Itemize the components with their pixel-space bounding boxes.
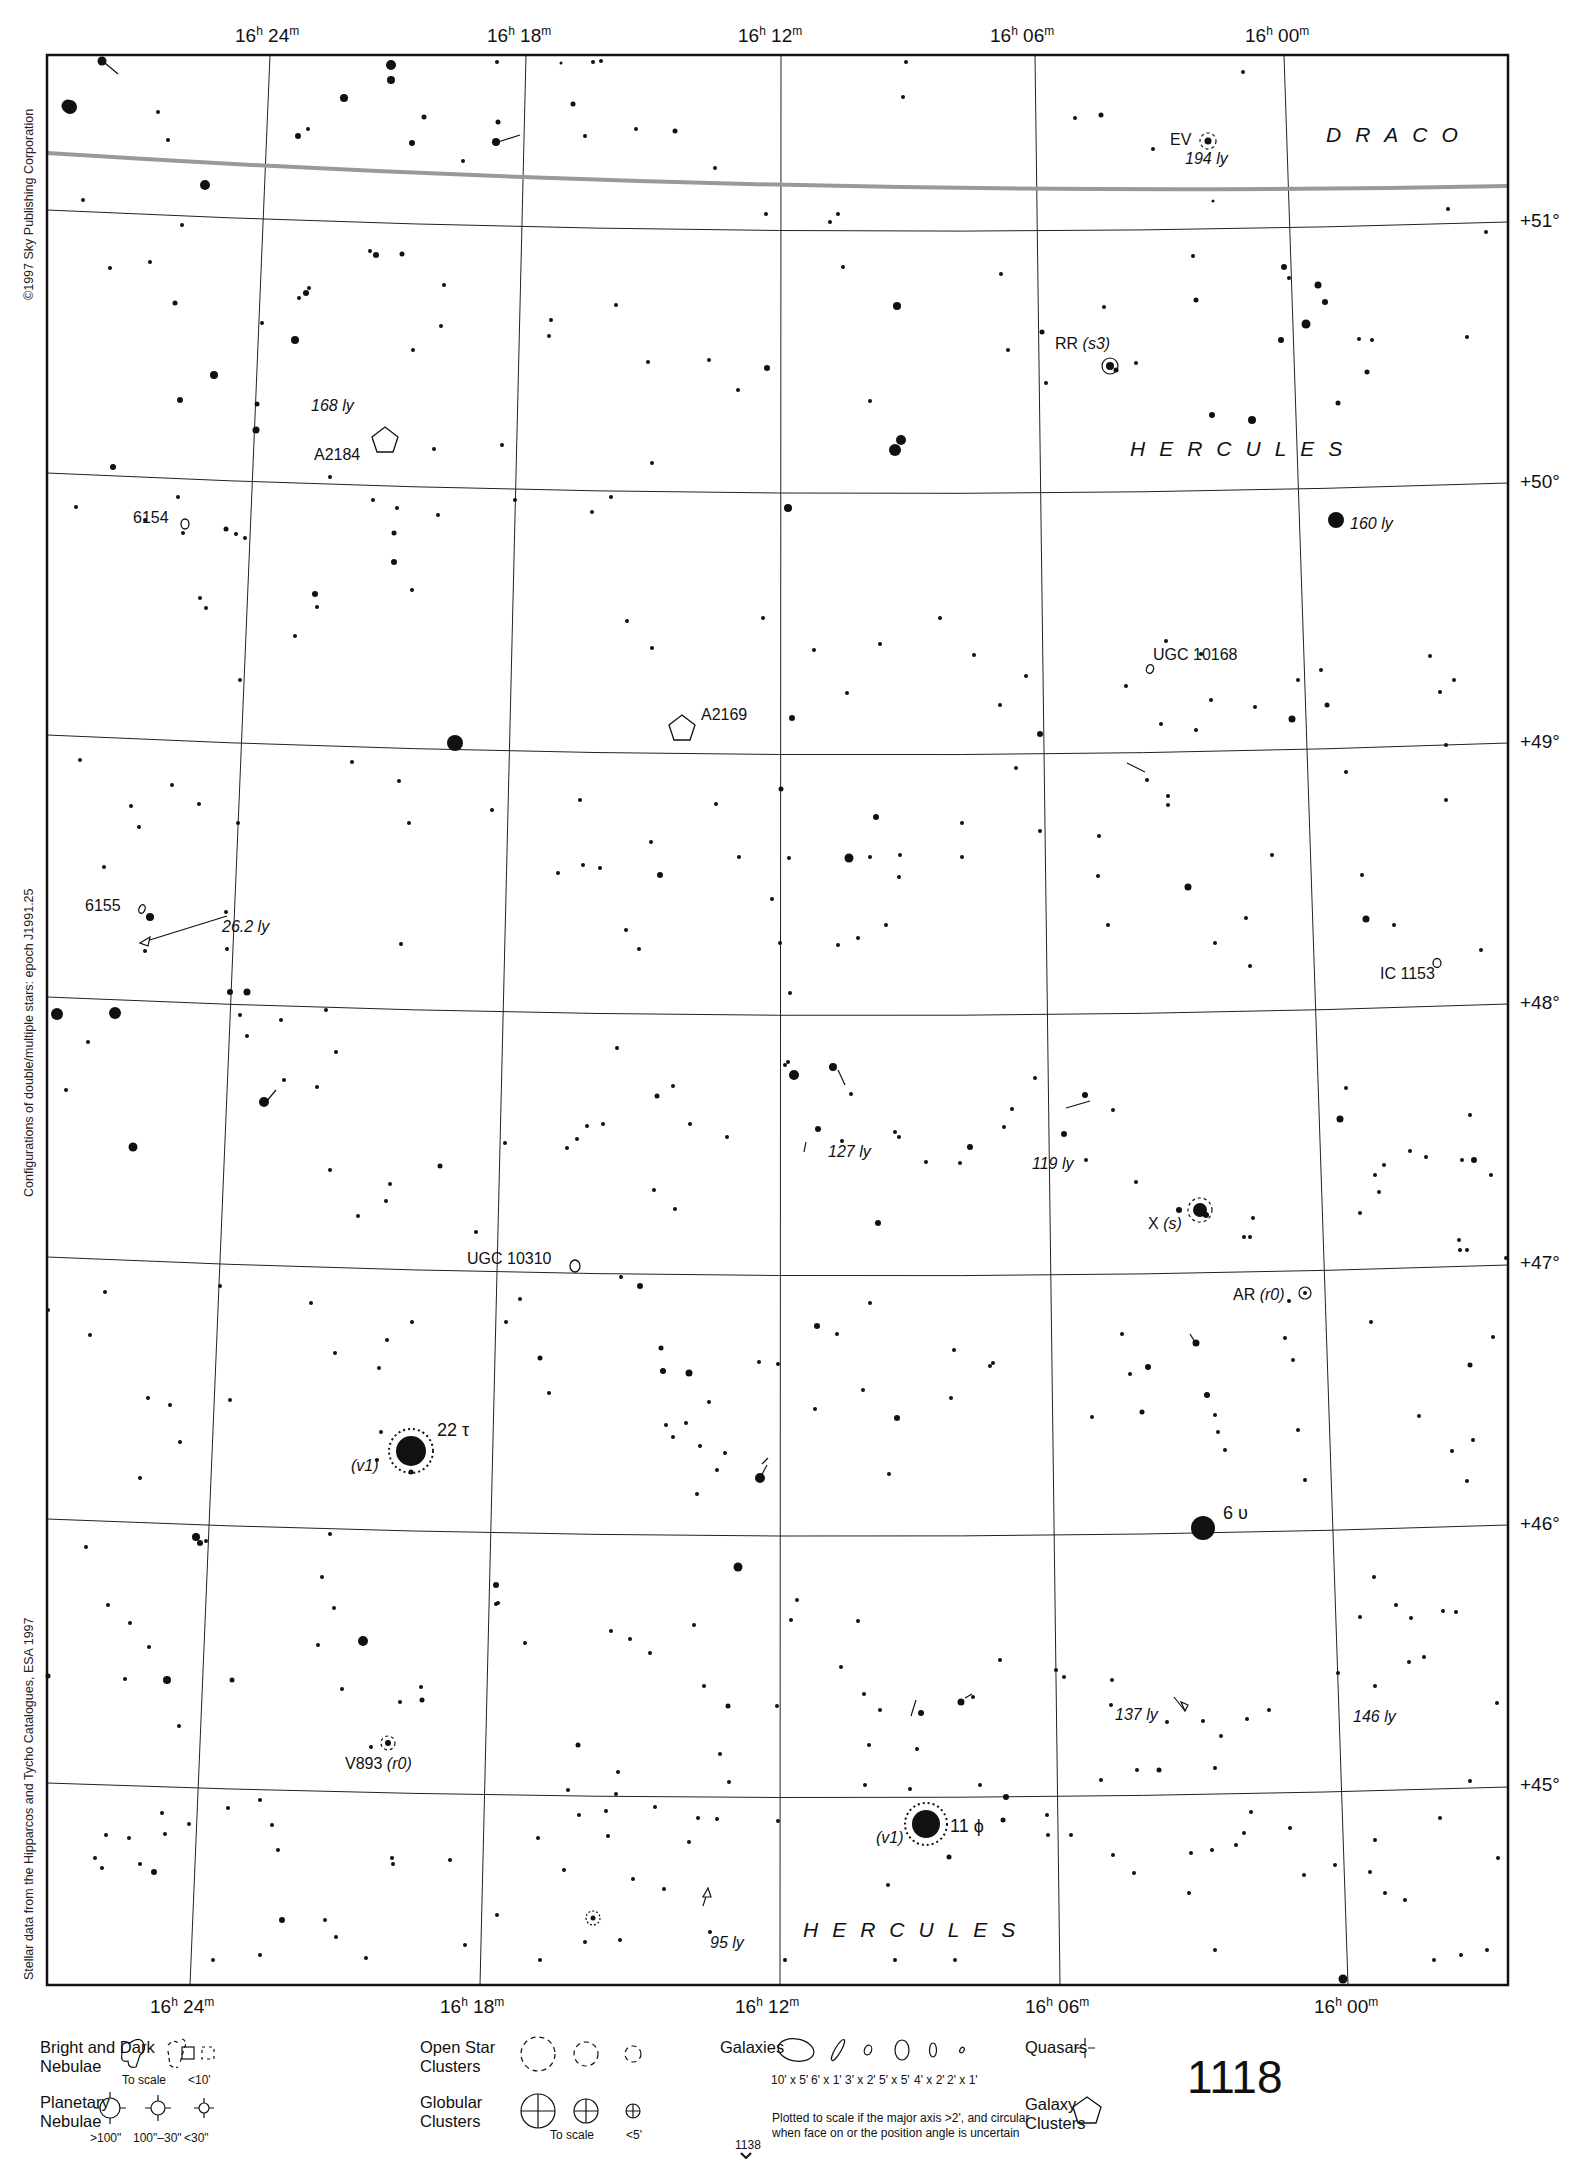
- legend-galaxy-note-2: when face on or the position angle is un…: [772, 2126, 1020, 2140]
- star: [282, 1078, 286, 1082]
- star: [1191, 254, 1195, 258]
- star: [395, 506, 399, 510]
- open-cluster-small-icon: [625, 2046, 641, 2062]
- dec-label-45: +45°: [1520, 1774, 1560, 1796]
- star: [495, 1913, 499, 1917]
- star: [432, 447, 436, 451]
- star: [1452, 678, 1456, 682]
- star-22-tau[interactable]: [396, 1436, 426, 1466]
- star: [1033, 1076, 1037, 1080]
- star: [391, 1862, 395, 1866]
- star-x[interactable]: [1193, 1203, 1207, 1217]
- star: [1111, 1108, 1115, 1112]
- label-22-tau: 22 τ: [437, 1420, 469, 1441]
- star: [1062, 1675, 1066, 1679]
- star: [1496, 1856, 1500, 1860]
- galaxy-cluster-a2184[interactable]: [372, 427, 398, 452]
- star: [829, 1063, 837, 1071]
- star: [253, 427, 260, 434]
- open-cluster-medium-icon: [574, 2042, 598, 2066]
- star: [562, 1868, 566, 1872]
- star: [836, 943, 840, 947]
- star: [707, 358, 711, 362]
- star-rr[interactable]: [1106, 362, 1114, 370]
- star: [384, 1199, 388, 1203]
- galaxy-ugc10168[interactable]: [1145, 664, 1155, 675]
- star: [637, 947, 641, 951]
- star: [884, 923, 888, 927]
- star: [893, 1958, 897, 1962]
- star-ev[interactable]: [1205, 138, 1212, 145]
- star: [1134, 1180, 1138, 1184]
- star: [1164, 639, 1168, 643]
- galaxy-6154[interactable]: [181, 519, 189, 529]
- star-v893[interactable]: [385, 1740, 391, 1746]
- star: [170, 783, 174, 787]
- star: [560, 62, 563, 65]
- star: [783, 1063, 787, 1067]
- star: [849, 1092, 853, 1096]
- star: [538, 1356, 543, 1361]
- label-6155: 6155: [85, 897, 121, 915]
- star: [245, 1034, 249, 1038]
- star: [779, 787, 784, 792]
- star: [598, 866, 602, 870]
- star: [1441, 1609, 1445, 1613]
- star: [204, 606, 208, 610]
- star: [463, 1943, 467, 1947]
- galaxy-6155[interactable]: [138, 904, 147, 915]
- galaxy-cluster-a2169[interactable]: [669, 715, 695, 740]
- star: [1244, 916, 1248, 920]
- star: [1213, 1948, 1217, 1952]
- star: [614, 1792, 618, 1796]
- dec-line-47: [47, 1257, 1508, 1276]
- star: [279, 1917, 285, 1923]
- star: [652, 1188, 656, 1192]
- galaxy-ugc10310[interactable]: [570, 1260, 580, 1272]
- star: [953, 1958, 957, 1962]
- quasar-icon: [1073, 2036, 1097, 2060]
- star: [687, 1840, 691, 1844]
- star: [1450, 1449, 1454, 1453]
- star: [143, 949, 147, 953]
- star: [1428, 654, 1432, 658]
- star: [1302, 320, 1311, 329]
- star: [1296, 1428, 1300, 1432]
- star: [1302, 1873, 1306, 1877]
- star: [197, 802, 201, 806]
- star: [1458, 1248, 1462, 1252]
- star: [653, 1805, 657, 1809]
- adjacent-chart-arrow-icon[interactable]: [740, 2152, 752, 2159]
- adjacent-chart-number[interactable]: 1138: [735, 2138, 761, 2152]
- star-160ly[interactable]: [1328, 512, 1344, 528]
- star: [1014, 766, 1018, 770]
- star: [1111, 1853, 1115, 1857]
- star: [1209, 698, 1213, 702]
- bright-stars: [63, 100, 1344, 1925]
- star-11-phi[interactable]: [912, 1810, 940, 1838]
- star: [1248, 416, 1256, 424]
- label-a2169: A2169: [701, 706, 747, 724]
- star: [1006, 348, 1010, 352]
- star: [373, 252, 379, 258]
- star: [192, 1533, 200, 1541]
- star: [616, 1770, 620, 1774]
- star: [725, 1135, 729, 1139]
- star-6-upsilon[interactable]: [1191, 1516, 1215, 1540]
- star-ar[interactable]: [1303, 1291, 1307, 1295]
- star: [258, 1798, 262, 1802]
- ra-bottom-16h24m: 16h 24m: [150, 1995, 214, 2018]
- star: [503, 1141, 507, 1145]
- star: [727, 1780, 731, 1784]
- star: [513, 498, 517, 502]
- star: [1248, 1235, 1252, 1239]
- star: [1201, 1719, 1205, 1723]
- copyright-credit: ©1997 Sky Publishing Corporation: [22, 109, 36, 300]
- label-a2184: A2184: [314, 446, 360, 464]
- planetary-small-icon: [199, 2103, 209, 2113]
- star: [1270, 853, 1274, 857]
- star: [244, 989, 251, 996]
- star: [715, 1468, 719, 1472]
- galaxy-icons: [770, 2035, 980, 2067]
- star: [1213, 941, 1217, 945]
